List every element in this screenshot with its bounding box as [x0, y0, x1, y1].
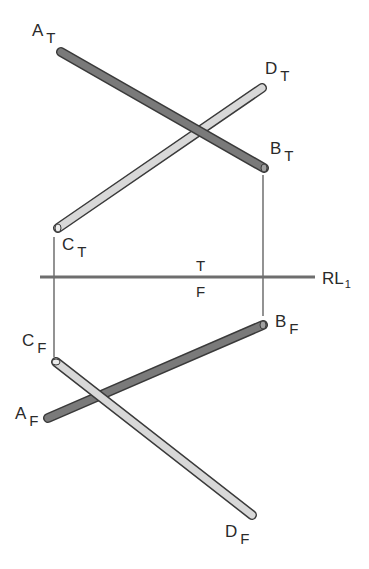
label-main: RL	[322, 269, 344, 288]
label-main: C	[22, 331, 34, 350]
label-d-front: DF	[225, 523, 249, 540]
label-main: D	[225, 522, 237, 541]
projection-diagram	[0, 0, 369, 569]
label-sub: 1	[345, 278, 351, 290]
label-sub: F	[289, 320, 298, 337]
rod-ab-front	[48, 321, 266, 418]
label-c-front: CF	[22, 332, 46, 349]
label-main: B	[270, 139, 281, 158]
label-main: D	[265, 59, 277, 78]
plane-label-top: T	[196, 258, 205, 273]
label-sub: F	[29, 412, 38, 429]
label-a-top: AT	[32, 22, 56, 39]
rod-cd-top-end-cap	[55, 224, 61, 232]
label-sub: T	[77, 243, 86, 260]
label-b-front: BF	[275, 313, 299, 330]
label-sub: T	[46, 29, 55, 46]
label-b-top: BT	[270, 140, 294, 157]
label-a-front: AF	[15, 405, 39, 422]
label-sub: F	[240, 530, 249, 547]
label-sub: F	[37, 339, 46, 356]
label-reference-line: RL1	[322, 270, 351, 287]
label-c-top: CT	[62, 236, 86, 253]
plane-label-front: F	[196, 284, 205, 299]
label-sub: T	[284, 147, 293, 164]
label-sub: T	[280, 67, 289, 84]
label-main: A	[32, 21, 43, 40]
label-main: C	[62, 235, 74, 254]
label-main: B	[275, 312, 286, 331]
label-main: A	[15, 404, 26, 423]
label-d-top: DT	[265, 60, 289, 77]
rod-cd-front	[52, 359, 252, 515]
